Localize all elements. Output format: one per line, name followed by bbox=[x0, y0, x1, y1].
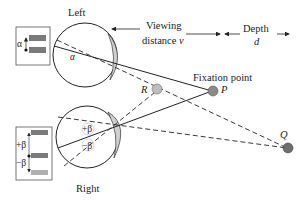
depth-var: d bbox=[254, 36, 260, 47]
viewing-label-1: Viewing bbox=[146, 20, 182, 31]
left-bar-bottom bbox=[29, 47, 46, 53]
point-r bbox=[152, 84, 162, 94]
plus-beta-inset-label: +β bbox=[16, 140, 26, 150]
plus-beta-label: +β bbox=[82, 124, 92, 134]
point-r-label: R bbox=[140, 84, 148, 95]
right-bar-top bbox=[31, 130, 48, 135]
left-inset-box: α bbox=[16, 27, 50, 65]
point-q bbox=[283, 143, 293, 153]
left-eye-label: Left bbox=[68, 7, 86, 18]
minus-beta-label: −β bbox=[82, 141, 92, 151]
right-bar-bottom bbox=[31, 170, 48, 175]
left-bar-top bbox=[29, 35, 46, 41]
viewing-label-2: distance v bbox=[142, 35, 184, 46]
binocular-disparity-diagram: α +β −β Left Right Viewing dist bbox=[0, 0, 308, 201]
point-p-label: P bbox=[220, 84, 228, 95]
right-inset-box: +β −β bbox=[16, 127, 52, 180]
right-eye-label: Right bbox=[76, 183, 99, 194]
alpha-inset-label: α bbox=[17, 39, 22, 49]
point-p bbox=[208, 86, 218, 96]
right-bar-middle bbox=[31, 153, 48, 158]
depth-label: Depth bbox=[243, 23, 269, 34]
minus-beta-inset-label: −β bbox=[16, 158, 26, 168]
fixation-label: Fixation point bbox=[193, 72, 252, 83]
point-q-label: Q bbox=[280, 129, 288, 140]
